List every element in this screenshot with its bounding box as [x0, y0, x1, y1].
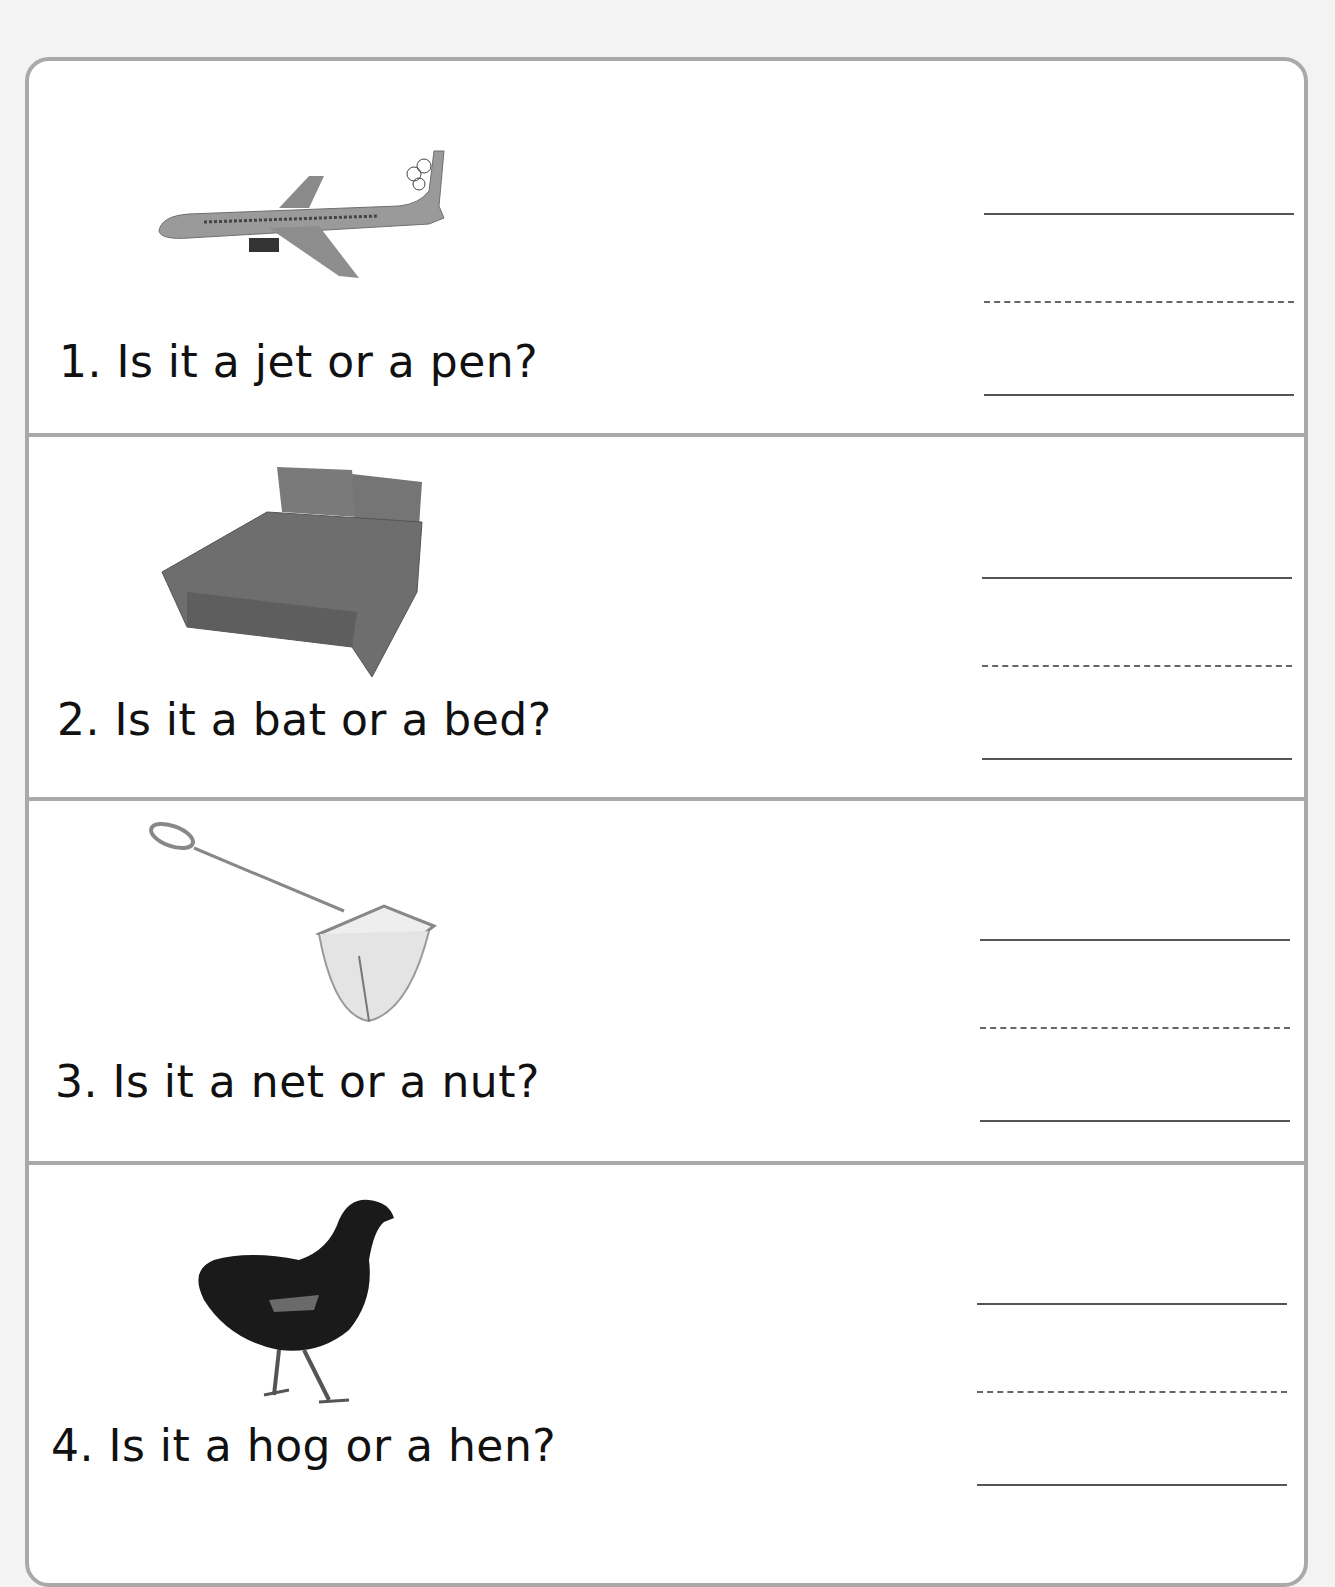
- question-row-1: 1. Is it a jet or a pen?: [29, 61, 1304, 433]
- airplane-image: [149, 146, 449, 286]
- midline-dashed: [977, 1391, 1287, 1393]
- answer-writing-lines[interactable]: [977, 1303, 1287, 1493]
- base-line: [977, 1484, 1287, 1486]
- top-line: [984, 213, 1294, 215]
- top-line: [977, 1303, 1287, 1305]
- midline-dashed: [980, 1027, 1290, 1029]
- question-row-2: 2. Is it a bat or a bed?: [29, 437, 1304, 797]
- question-text: 3. Is it a net or a nut?: [55, 1056, 540, 1107]
- question-row-4: 4. Is it a hog or a hen?: [29, 1165, 1304, 1585]
- question-text: 1. Is it a jet or a pen?: [59, 336, 538, 387]
- answer-writing-lines[interactable]: [984, 213, 1294, 403]
- midline-dashed: [982, 665, 1292, 667]
- base-line: [982, 758, 1292, 760]
- bed-image: [157, 462, 427, 682]
- fishing-net-image: [144, 816, 444, 1036]
- midline-dashed: [984, 301, 1294, 303]
- question-text: 4. Is it a hog or a hen?: [51, 1420, 556, 1471]
- worksheet-panel: 1. Is it a jet or a pen? 2. Is it a bat …: [25, 57, 1308, 1587]
- answer-writing-lines[interactable]: [980, 939, 1290, 1129]
- hen-image: [189, 1190, 399, 1420]
- question-text: 2. Is it a bat or a bed?: [57, 694, 552, 745]
- base-line: [980, 1120, 1290, 1122]
- top-line: [980, 939, 1290, 941]
- answer-writing-lines[interactable]: [982, 577, 1292, 767]
- base-line: [984, 394, 1294, 396]
- top-line: [982, 577, 1292, 579]
- question-row-3: 3. Is it a net or a nut?: [29, 801, 1304, 1161]
